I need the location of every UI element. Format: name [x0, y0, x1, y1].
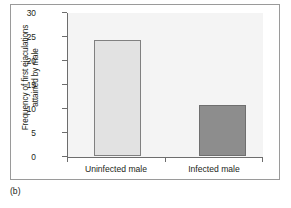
x-tick-label-uninfected-male: Uninfected male: [67, 165, 165, 174]
y-tick-label-0: 0: [0, 153, 36, 161]
bar-uninfected-male: [94, 40, 141, 156]
x-tick-mark-right: [262, 157, 263, 162]
y-tick-mark-30: [62, 12, 67, 13]
bar-infected-male: [199, 105, 246, 156]
x-tick-mark-middle: [165, 157, 166, 162]
figure-panel: Frequency of first ejaculations attained…: [10, 4, 280, 180]
y-tick-mark-10: [62, 108, 67, 109]
y-tick-mark-15: [62, 84, 67, 85]
x-tick-label-infected-male: Infected male: [165, 165, 263, 174]
y-tick-label-5: 5: [0, 129, 36, 137]
y-tick-label-30: 30: [0, 9, 36, 17]
y-tick-mark-5: [62, 132, 67, 133]
y-tick-mark-20: [62, 60, 67, 61]
y-tick-label-25: 25: [0, 33, 36, 41]
y-tick-label-10: 10: [0, 105, 36, 113]
x-tick-mark-left: [67, 157, 68, 162]
y-tick-label-20: 20: [0, 57, 36, 65]
figure-caption: (b): [10, 187, 21, 196]
y-tick-label-15: 15: [0, 81, 36, 89]
y-tick-mark-25: [62, 36, 67, 37]
y-axis-line: [67, 13, 68, 157]
